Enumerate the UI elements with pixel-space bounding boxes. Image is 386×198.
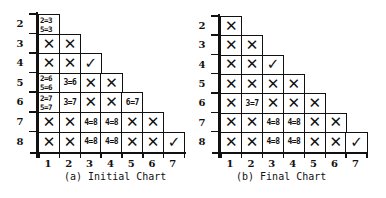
- chart-cell: ✕: [220, 35, 242, 56]
- chart-cell: ✓: [80, 53, 102, 74]
- col-label: 7: [163, 158, 183, 169]
- cross-icon: ✕: [64, 115, 77, 130]
- cross-icon: ✕: [64, 135, 77, 150]
- chart-cell: ✕: [100, 73, 122, 94]
- cross-icon: ✕: [84, 95, 97, 110]
- col-label: 7: [345, 158, 365, 169]
- row-tick: [211, 112, 219, 114]
- cross-icon: ✕: [225, 57, 238, 72]
- cross-icon: ✕: [329, 115, 342, 130]
- chart-cell: 4=8: [80, 112, 102, 133]
- cross-icon: ✕: [126, 135, 139, 150]
- chart-cell: 4=8: [100, 112, 122, 133]
- chart-cell: ✕: [38, 112, 60, 133]
- cell-text: 3=7: [63, 99, 76, 107]
- row-tick: [29, 72, 37, 74]
- col-label: 5: [121, 158, 141, 169]
- col-label: 2: [241, 158, 261, 169]
- cell-text: 4=8: [105, 138, 118, 146]
- row-tick: [29, 52, 37, 54]
- chart-cell: ✓: [262, 55, 284, 76]
- row-tick: [29, 131, 37, 133]
- cross-icon: ✕: [246, 57, 259, 72]
- row-label: 4: [196, 59, 208, 70]
- cross-icon: ✕: [225, 19, 238, 34]
- chart-cell: ✕: [262, 93, 284, 114]
- chart-cell: ✕: [220, 55, 242, 76]
- row-tick: [211, 15, 219, 17]
- row-tick: [29, 33, 37, 35]
- chart-caption: (b) Final Chart: [236, 171, 326, 182]
- chart-cell: ✕: [304, 113, 326, 134]
- cell-text: 4=8: [287, 119, 300, 127]
- cell-text: 4=8: [267, 119, 280, 127]
- row-label: 3: [196, 39, 208, 50]
- row-label: 2: [196, 20, 208, 31]
- chart-cell: ✕: [220, 132, 242, 153]
- col-label: 1: [220, 158, 240, 169]
- chart-cell: 2=3 5=3: [38, 14, 60, 35]
- cross-icon: ✕: [43, 56, 56, 71]
- row-label: 8: [196, 136, 208, 147]
- chart-cell: ✕: [59, 112, 81, 133]
- cross-icon: ✕: [64, 56, 77, 71]
- chart-cell: ✕: [241, 35, 263, 56]
- col-label: 3: [262, 158, 282, 169]
- chart-caption: (a) Initial Chart: [64, 171, 166, 182]
- cross-icon: ✕: [126, 115, 139, 130]
- row-label: 6: [196, 97, 208, 108]
- cross-icon: ✕: [147, 115, 160, 130]
- cross-icon: ✕: [329, 135, 342, 150]
- chart-cell: ✕: [304, 93, 326, 114]
- row-label: 4: [14, 57, 26, 68]
- cross-icon: ✕: [225, 135, 238, 150]
- row-label: 2: [14, 18, 26, 29]
- cell-text: 6=7: [126, 99, 139, 107]
- chart-cell: ✕: [100, 92, 122, 113]
- chart-cell: ✕: [220, 93, 242, 114]
- col-label: 6: [142, 158, 162, 169]
- chart-cell: ✕: [283, 74, 305, 95]
- cell-text: 3=7: [246, 100, 259, 108]
- chart-cell: ✓: [163, 132, 185, 153]
- col-label: 3: [80, 158, 100, 169]
- chart-cell: ✓: [345, 132, 367, 153]
- chart-cell: ✕: [38, 53, 60, 74]
- chart-cell: 2=7 5=7: [38, 92, 60, 113]
- chart-cell: ✕: [142, 112, 164, 133]
- col-label: 5: [304, 158, 324, 169]
- row-tick: [211, 73, 219, 75]
- cross-icon: ✕: [309, 135, 322, 150]
- row-tick: [211, 92, 219, 94]
- cross-icon: ✕: [43, 115, 56, 130]
- chart-cell: ✕: [59, 132, 81, 153]
- cross-icon: ✕: [246, 135, 259, 150]
- cross-icon: ✕: [43, 135, 56, 150]
- cell-text-pair: 2=3 5=3: [39, 16, 52, 34]
- chart-cell: ✕: [38, 34, 60, 55]
- cross-icon: ✕: [105, 76, 118, 91]
- chart-cell: ✕: [121, 112, 143, 133]
- chart-cell: 6=7: [121, 92, 143, 113]
- check-icon: ✓: [84, 56, 97, 71]
- chart-cell: 4=8: [283, 113, 305, 134]
- cross-icon: ✕: [267, 77, 280, 92]
- chart-cell: ✕: [80, 73, 102, 94]
- chart-cell: ✕: [262, 74, 284, 95]
- col-label: 6: [325, 158, 345, 169]
- cell-text-pair: 2=6 5=6: [39, 74, 52, 92]
- cross-icon: ✕: [147, 135, 160, 150]
- cross-icon: ✕: [43, 37, 56, 52]
- chart-cell: 4=8: [80, 132, 102, 153]
- chart-cell: ✕: [80, 92, 102, 113]
- chart-cell: 3=6: [59, 73, 81, 94]
- cell-text-pair: 2=7 5=7: [39, 94, 52, 112]
- col-label: 4: [100, 158, 120, 169]
- chart-cell: ✕: [220, 74, 242, 95]
- chart-cell: ✕: [241, 55, 263, 76]
- cross-icon: ✕: [105, 95, 118, 110]
- cross-icon: ✕: [225, 115, 238, 130]
- chart-cell: 4=8: [262, 132, 284, 153]
- row-label: 7: [196, 117, 208, 128]
- col-label: 4: [283, 158, 303, 169]
